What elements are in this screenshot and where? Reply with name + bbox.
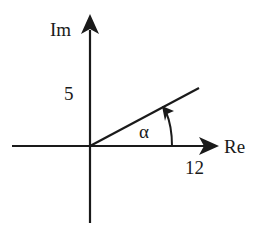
real-tick-label: 12 [185,157,204,178]
imaginary-axis [81,14,99,223]
complex-plane-diagram: Im 5 α Re 12 [0,0,261,225]
angle-arc [162,106,174,146]
imaginary-axis-label: Im [50,19,71,40]
real-axis [12,137,219,155]
real-axis-label: Re [224,136,245,157]
angle-label: α [139,121,149,142]
imaginary-tick-label: 5 [64,83,74,104]
